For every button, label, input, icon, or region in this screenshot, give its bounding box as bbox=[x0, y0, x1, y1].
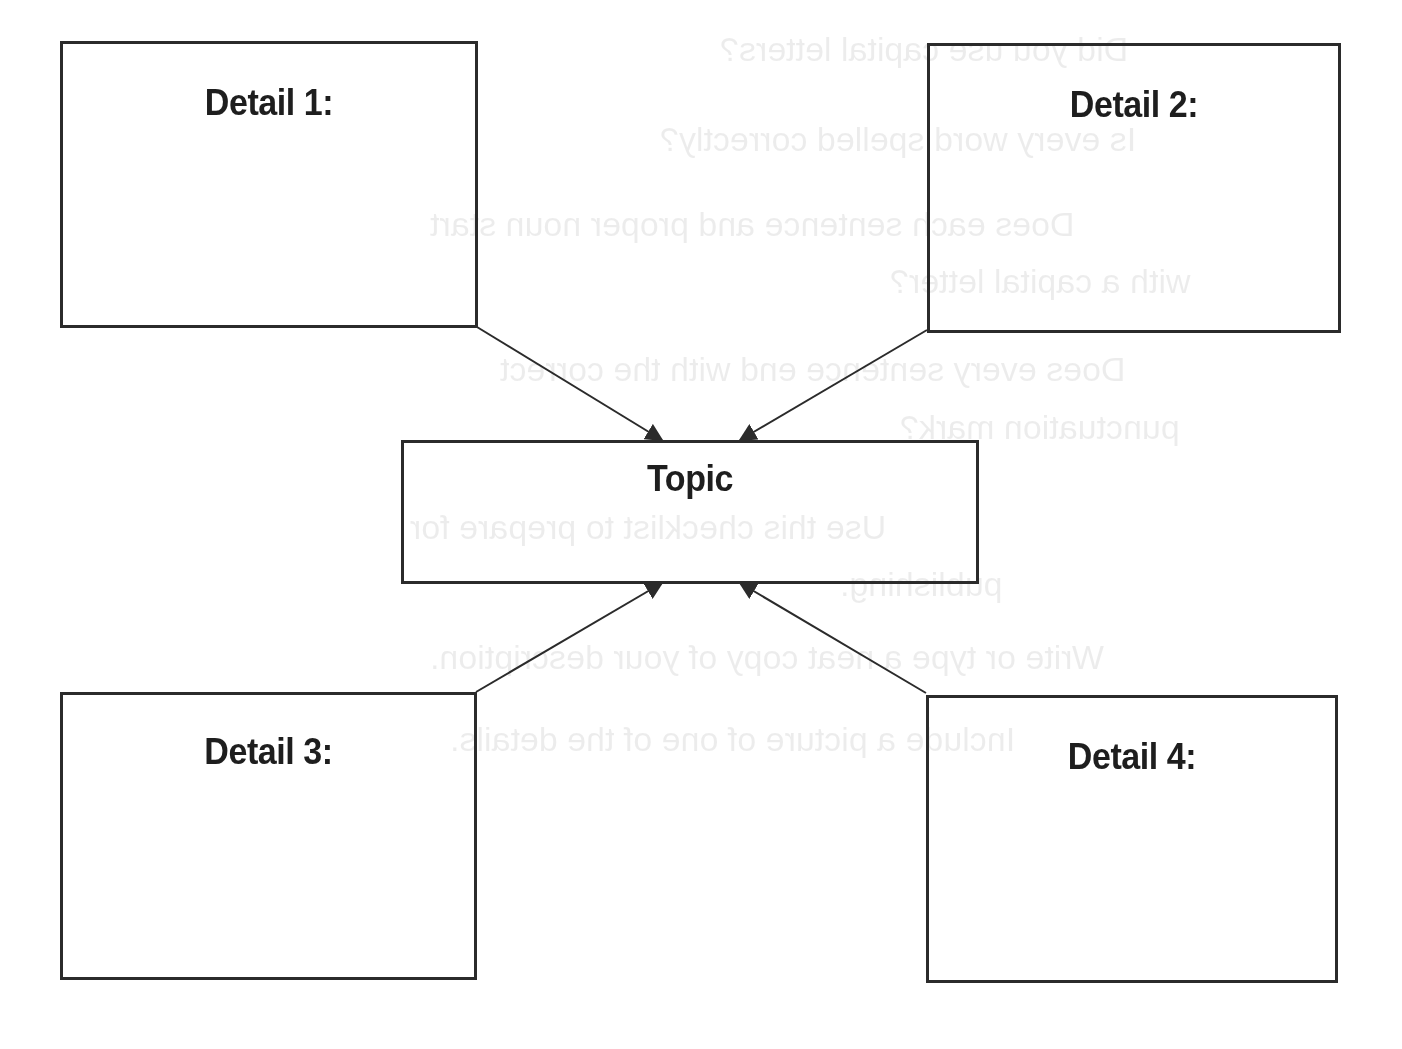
detail-label: Detail 4: bbox=[945, 736, 1319, 778]
arrow-detail1-to-topic bbox=[477, 327, 662, 440]
detail-box-1: Detail 1: bbox=[60, 41, 478, 328]
detail-label: Detail 2: bbox=[946, 84, 1321, 126]
arrow-detail4-to-topic bbox=[740, 583, 926, 693]
detail-box-2: Detail 2: bbox=[927, 43, 1341, 333]
detail-box-4: Detail 4: bbox=[926, 695, 1338, 983]
topic-box: Topic bbox=[401, 440, 979, 584]
arrow-detail2-to-topic bbox=[740, 330, 927, 440]
detail-label: Detail 3: bbox=[79, 731, 457, 773]
detail-label: Detail 1: bbox=[79, 82, 458, 124]
topic-label: Topic bbox=[427, 458, 953, 500]
detail-box-3: Detail 3: bbox=[60, 692, 477, 980]
arrow-detail3-to-topic bbox=[476, 583, 662, 692]
